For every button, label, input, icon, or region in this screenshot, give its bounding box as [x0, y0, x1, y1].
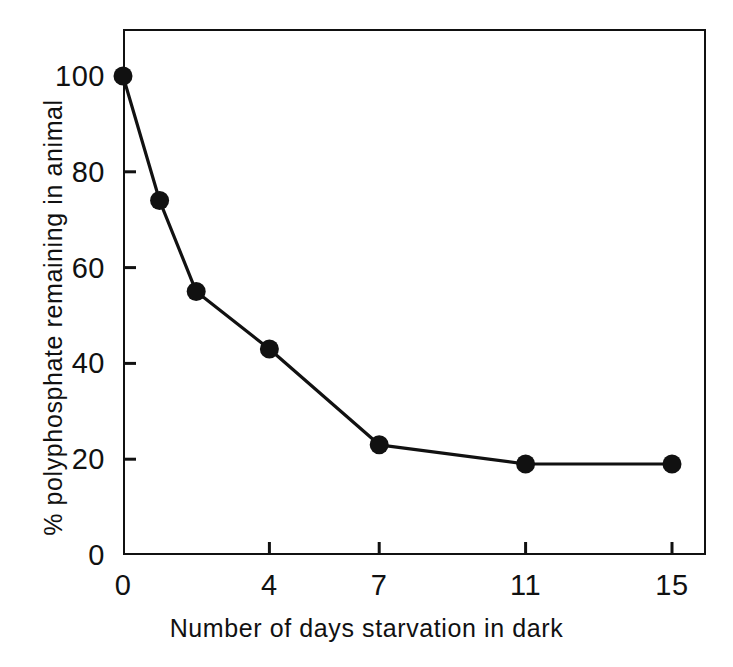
x-tick-label: 15 — [655, 569, 688, 602]
x-tick-label: 4 — [261, 569, 278, 602]
x-tick-label: 11 — [510, 569, 541, 602]
x-tick-label: 7 — [371, 569, 388, 602]
y-tick-label: 60 — [72, 251, 105, 284]
x-axis-title: Number of days starvation in dark — [0, 614, 733, 643]
y-tick-label: 80 — [72, 155, 105, 188]
y-tick-label: 20 — [72, 443, 105, 476]
x-tick-label: 0 — [115, 569, 132, 602]
y-tick-label: 0 — [88, 539, 105, 572]
chart-figure: 020406080100 0471115 % polyphosphate rem… — [0, 0, 733, 667]
plot-frame — [123, 29, 706, 555]
y-axis-title: % polyphosphate remaining in animal — [39, 18, 68, 618]
y-tick-label: 40 — [72, 347, 105, 380]
